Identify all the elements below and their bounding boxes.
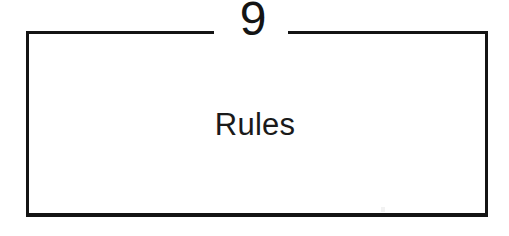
chapter-title-text: Rules <box>215 109 295 140</box>
chapter-title: Rules <box>26 109 488 140</box>
chapter-number: 9 <box>26 0 488 43</box>
chapter-opener-page: 9 Rules <box>0 0 509 236</box>
scan-artifact-speck <box>381 207 385 212</box>
frame-bottom-rule <box>26 213 488 217</box>
chapter-frame: 9 Rules <box>26 31 488 217</box>
chapter-number-text: 9 <box>240 0 267 43</box>
